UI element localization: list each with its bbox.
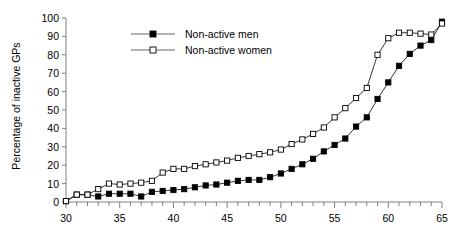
legend-group: Non-active menNon-active women — [131, 28, 272, 56]
series-marker — [149, 178, 154, 183]
series-marker — [139, 194, 144, 199]
series-marker — [225, 180, 230, 185]
series-marker — [257, 177, 262, 182]
series-marker — [278, 171, 283, 176]
series-marker — [117, 191, 122, 196]
series-marker — [225, 158, 230, 163]
y-axis-tick-label: 100 — [41, 12, 59, 24]
series-marker — [310, 156, 315, 161]
series-marker — [386, 36, 391, 41]
y-axis-tick-label: 50 — [47, 104, 59, 116]
series-marker — [300, 162, 305, 167]
x-axis-tick-label: 65 — [436, 212, 448, 224]
y-axis-tick-label: 60 — [47, 86, 59, 98]
series-marker — [182, 187, 187, 192]
chart-figure: Percentage of inactive GPs 0102030405060… — [0, 0, 461, 237]
series-marker — [321, 125, 326, 130]
legend-label: Non-active women — [185, 44, 272, 56]
x-axis-tick-label: 45 — [221, 212, 233, 224]
series-marker — [407, 30, 412, 35]
series-marker — [289, 141, 294, 146]
series-marker — [364, 85, 369, 90]
series-marker — [203, 183, 208, 188]
series-marker — [278, 147, 283, 152]
series-marker — [117, 182, 122, 187]
series-marker — [96, 187, 101, 192]
series-marker — [149, 189, 154, 194]
legend-marker — [150, 31, 156, 37]
series-marker — [353, 95, 358, 100]
series-marker — [268, 150, 273, 155]
legend-label: Non-active men — [185, 28, 259, 40]
x-axis-tick-label: 30 — [60, 212, 72, 224]
series-marker — [171, 187, 176, 192]
series-marker — [235, 178, 240, 183]
series-marker — [85, 192, 90, 197]
series-marker — [214, 160, 219, 165]
series-marker — [332, 115, 337, 120]
series-marker — [128, 181, 133, 186]
y-axis-tick-label: 30 — [47, 141, 59, 153]
series-marker — [160, 188, 165, 193]
series-marker — [375, 52, 380, 57]
series-marker — [418, 43, 423, 48]
series-marker — [96, 194, 101, 199]
series-marker — [353, 124, 358, 129]
y-axis-tick-label: 80 — [47, 49, 59, 61]
series-marker — [343, 136, 348, 141]
series-marker — [192, 164, 197, 169]
series-marker — [429, 32, 434, 37]
series-marker — [418, 31, 423, 36]
series-marker — [364, 115, 369, 120]
series-marker — [310, 131, 315, 136]
chart-plot-area: 01020304050607080901003035404550556065 N… — [0, 0, 461, 237]
y-axis-tick-label: 10 — [47, 178, 59, 190]
x-axis-tick-label: 50 — [275, 212, 287, 224]
series-marker — [182, 166, 187, 171]
series-marker — [246, 177, 251, 182]
series-marker — [396, 63, 401, 68]
series-marker — [289, 166, 294, 171]
series-marker — [343, 106, 348, 111]
series-marker — [139, 180, 144, 185]
x-axis-tick-label: 35 — [114, 212, 126, 224]
x-axis-tick-label: 40 — [168, 212, 180, 224]
series-marker — [439, 21, 444, 26]
series-marker — [246, 153, 251, 158]
legend-marker — [150, 47, 156, 53]
series-marker — [407, 51, 412, 56]
series-marker — [106, 181, 111, 186]
series-marker — [74, 192, 79, 197]
series-marker — [257, 152, 262, 157]
series-marker — [386, 80, 391, 85]
series-marker — [321, 149, 326, 154]
series-marker — [214, 182, 219, 187]
series-marker — [396, 30, 401, 35]
series-marker — [268, 175, 273, 180]
y-axis-tick-label: 90 — [47, 30, 59, 42]
y-axis-tick-label: 0 — [53, 196, 59, 208]
series-marker — [192, 185, 197, 190]
series-marker — [106, 191, 111, 196]
y-axis-tick-label: 20 — [47, 159, 59, 171]
x-axis-tick-label: 55 — [329, 212, 341, 224]
series-marker — [235, 155, 240, 160]
series-marker — [300, 137, 305, 142]
x-axis-tick-label: 60 — [382, 212, 394, 224]
series-marker — [429, 37, 434, 42]
series-marker — [375, 96, 380, 101]
y-axis-tick-label: 70 — [47, 67, 59, 79]
series-marker — [63, 198, 68, 203]
series-marker — [332, 142, 337, 147]
y-axis-tick-label: 40 — [47, 122, 59, 134]
series-marker — [160, 170, 165, 175]
series-marker — [171, 166, 176, 171]
series-marker — [203, 162, 208, 167]
series-marker — [128, 191, 133, 196]
